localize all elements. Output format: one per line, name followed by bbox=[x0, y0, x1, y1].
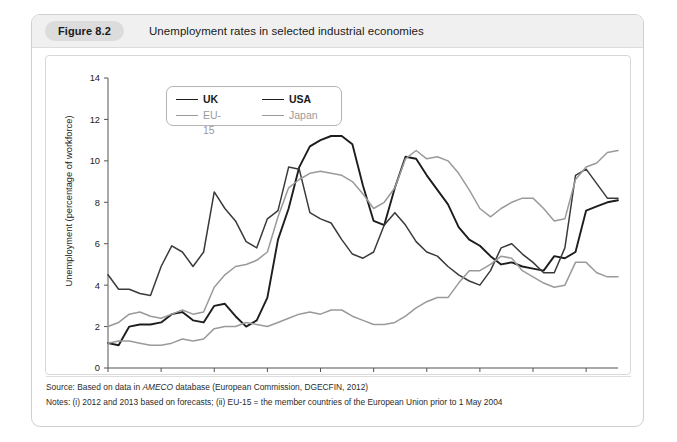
figure-notes-line: Notes: (i) 2012 and 2013 based on foreca… bbox=[46, 395, 631, 410]
chart-plot-panel: 02468101214 1965197019751980198519901995… bbox=[45, 55, 631, 375]
source-prefix: Source: Based on data in bbox=[46, 382, 142, 392]
svg-text:6: 6 bbox=[95, 239, 100, 249]
legend-label-japan: Japan bbox=[289, 108, 318, 123]
legend-swatch-japan bbox=[262, 115, 284, 116]
figure-title: Unemployment rates in selected industria… bbox=[149, 21, 424, 41]
y-axis-label: Unemployment (percentage of workforce) bbox=[64, 86, 74, 316]
svg-text:12: 12 bbox=[90, 115, 100, 125]
source-database-name: AMECO bbox=[142, 382, 173, 392]
svg-text:10: 10 bbox=[90, 156, 100, 166]
legend-swatch-uk bbox=[176, 99, 198, 100]
svg-text:0: 0 bbox=[95, 363, 100, 373]
figure-header-bar: Figure 8.2 Unemployment rates in selecte… bbox=[32, 15, 643, 48]
svg-text:4: 4 bbox=[95, 281, 100, 291]
series-line-eu-15 bbox=[108, 151, 618, 327]
figure-source-line: Source: Based on data in AMECO database … bbox=[46, 380, 631, 395]
figure-number-badge: Figure 8.2 bbox=[45, 21, 124, 41]
chart-series-lines bbox=[108, 136, 618, 345]
legend-label-uk: UK bbox=[203, 92, 218, 107]
figure-card: Figure 8.2 Unemployment rates in selecte… bbox=[31, 14, 644, 427]
svg-text:14: 14 bbox=[90, 73, 100, 83]
source-suffix: database (European Commission, DGECFIN, … bbox=[173, 382, 368, 392]
series-line-uk bbox=[108, 136, 618, 345]
svg-text:8: 8 bbox=[95, 198, 100, 208]
footer-divider bbox=[46, 376, 631, 377]
x-axis-ticks: 1965197019751980198519901995200020052010 bbox=[98, 368, 597, 374]
figure-footer: Source: Based on data in AMECO database … bbox=[46, 380, 631, 410]
legend-swatch-eu15 bbox=[176, 115, 198, 116]
y-axis-ticks: 02468101214 bbox=[90, 73, 108, 373]
legend-label-eu15: EU-15 bbox=[203, 108, 221, 138]
legend-label-usa: USA bbox=[289, 92, 311, 107]
svg-text:2: 2 bbox=[95, 322, 100, 332]
legend-swatch-usa bbox=[262, 99, 284, 100]
chart-legend: UK USA EU-15 Japan bbox=[166, 86, 342, 126]
